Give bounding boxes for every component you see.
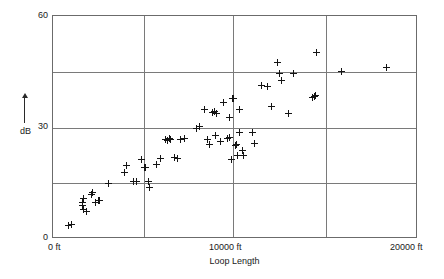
data-point <box>268 103 275 110</box>
scatter-chart-figure: 60 30 0 dB 0 ft 10000 ft 20000 ft Loop L… <box>0 0 444 279</box>
data-point <box>276 70 283 77</box>
data-point <box>228 156 235 163</box>
data-point <box>211 108 218 115</box>
data-point <box>153 161 160 168</box>
data-point <box>164 137 171 144</box>
data-point <box>80 195 87 202</box>
data-point <box>224 135 231 142</box>
data-point <box>157 155 164 162</box>
data-point <box>174 155 181 162</box>
data-point <box>88 191 95 198</box>
data-point <box>123 162 130 169</box>
data-point <box>167 136 174 143</box>
x-tick-20000: 20000 ft <box>390 243 423 252</box>
data-point <box>236 106 243 113</box>
data-point <box>92 199 99 206</box>
data-point <box>258 82 265 89</box>
data-point <box>181 135 188 142</box>
data-point <box>249 129 256 136</box>
gridline-v-5000 <box>144 16 145 237</box>
data-point <box>146 184 153 191</box>
data-point <box>133 178 140 185</box>
data-point <box>89 189 96 196</box>
data-point <box>83 208 90 215</box>
data-point <box>121 169 128 176</box>
data-point <box>311 93 318 100</box>
x-axis-label: Loop Length <box>52 256 417 266</box>
data-point <box>212 132 219 139</box>
data-point <box>204 136 211 143</box>
data-point <box>251 140 258 147</box>
data-point <box>240 152 247 159</box>
data-point <box>206 141 213 148</box>
y-axis-ticks: 60 30 0 <box>0 0 48 279</box>
data-point <box>96 197 103 204</box>
data-point <box>236 129 243 136</box>
data-point <box>171 154 178 161</box>
data-point <box>274 59 281 66</box>
data-point <box>65 222 72 229</box>
data-point <box>68 221 75 228</box>
y-axis-label-group: dB <box>14 92 48 136</box>
data-point <box>220 99 227 106</box>
data-point <box>313 49 320 56</box>
y-axis-label: dB <box>20 127 31 136</box>
gridline-h-45 <box>53 72 416 73</box>
data-point <box>80 206 87 213</box>
data-point <box>383 64 390 71</box>
x-tick-0: 0 ft <box>48 243 61 252</box>
data-point <box>234 152 241 159</box>
data-point <box>264 83 271 90</box>
data-point <box>79 202 86 209</box>
up-arrow-icon <box>24 97 25 123</box>
data-point <box>79 199 86 206</box>
plot-area <box>52 15 417 238</box>
data-point <box>312 92 319 99</box>
data-point <box>209 109 216 116</box>
data-point <box>95 197 102 204</box>
data-point <box>226 134 233 141</box>
data-point <box>309 94 316 101</box>
y-tick-60: 60 <box>38 11 48 20</box>
gridline-v-15000 <box>326 16 327 237</box>
data-point <box>201 106 208 113</box>
data-point <box>162 136 169 143</box>
data-point <box>290 70 297 77</box>
data-point <box>217 138 224 145</box>
gridline-h-30 <box>53 128 416 129</box>
data-point <box>166 135 173 142</box>
data-point <box>177 136 184 143</box>
x-tick-10000: 10000 ft <box>209 243 242 252</box>
data-point <box>213 110 220 117</box>
gridline-h-15 <box>53 183 416 184</box>
data-point <box>278 77 285 84</box>
data-point <box>239 147 246 154</box>
data-point <box>285 110 292 117</box>
y-tick-0: 0 <box>43 233 48 242</box>
gridline-v-10000 <box>233 16 234 237</box>
